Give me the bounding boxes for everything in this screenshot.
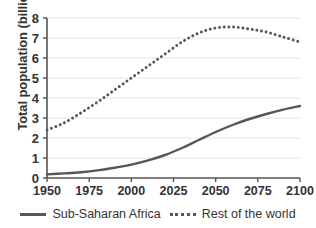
y-axis-ticks: 012345678 xyxy=(32,11,47,186)
legend-item-sub-saharan-africa[interactable]: Sub-Saharan Africa xyxy=(20,207,160,221)
y-tick-label: 7 xyxy=(32,31,39,46)
x-tick-label: 2000 xyxy=(117,184,145,198)
y-tick-label: 1 xyxy=(32,151,39,166)
chart-legend: Sub-Saharan Africa Rest of the world xyxy=(0,204,316,224)
population-line-chart: Total population (billions) 012345678 19… xyxy=(0,0,316,228)
y-tick-label: 4 xyxy=(32,91,40,106)
x-tick-label: 1975 xyxy=(75,184,103,198)
x-tick-label: 2100 xyxy=(286,184,314,198)
data-series-group xyxy=(47,27,300,174)
plot-area: 012345678 1950197520002025205020752100 xyxy=(0,0,316,228)
y-tick-label: 6 xyxy=(32,51,39,66)
gridlines xyxy=(47,18,300,158)
x-tick-label: 2025 xyxy=(160,184,188,198)
y-tick-label: 5 xyxy=(32,71,39,86)
y-tick-label: 3 xyxy=(32,111,39,126)
x-tick-label: 2050 xyxy=(202,184,230,198)
series-line-sub-saharan-africa xyxy=(47,106,300,174)
dotted-line-swatch-icon xyxy=(170,213,196,216)
x-tick-label: 1950 xyxy=(33,184,61,198)
x-axis-ticks: 1950197520002025205020752100 xyxy=(33,178,314,198)
legend-item-rest-of-the-world[interactable]: Rest of the world xyxy=(170,207,296,221)
y-tick-label: 8 xyxy=(32,11,39,26)
y-tick-label: 2 xyxy=(32,131,39,146)
legend-label-sub-saharan-africa: Sub-Saharan Africa xyxy=(52,207,160,221)
solid-line-swatch-icon xyxy=(20,213,46,216)
x-tick-label: 2075 xyxy=(244,184,272,198)
legend-label-rest-of-the-world: Rest of the world xyxy=(202,207,296,221)
